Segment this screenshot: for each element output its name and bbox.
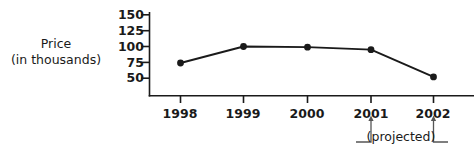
line-chart-figure: Price (in thousands) 150 125 100 75 50 bbox=[0, 0, 475, 159]
projected-annotation-label: (projected) bbox=[356, 130, 446, 143]
x-tick-label: 1998 bbox=[157, 107, 203, 120]
x-tick-label: 2001 bbox=[348, 107, 394, 120]
x-tick-label: 2000 bbox=[284, 107, 330, 120]
x-tick-label: 2002 bbox=[410, 107, 456, 120]
x-tick-label: 1999 bbox=[220, 107, 266, 120]
